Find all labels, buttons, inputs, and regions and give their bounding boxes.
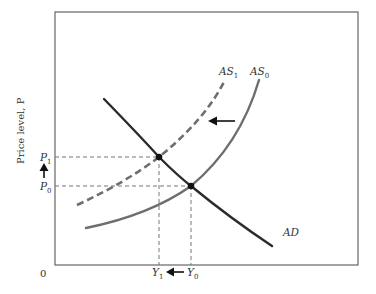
ad-curve bbox=[104, 99, 272, 246]
equilibrium-point-new bbox=[156, 154, 163, 161]
as1-label: AS1 bbox=[218, 65, 238, 80]
as0-label: AS0 bbox=[249, 65, 269, 80]
equilibrium-point-initial bbox=[188, 183, 195, 190]
y0-label: Y0 bbox=[187, 266, 198, 281]
output-left-arrow-icon bbox=[166, 268, 184, 277]
ad-as-diagram: AS1 AS0 AD P1 P0 Y1 Y0 0 Price level, P bbox=[0, 0, 376, 294]
as0-curve bbox=[86, 80, 259, 228]
p1-label: P1 bbox=[39, 151, 52, 166]
plot-frame bbox=[55, 12, 358, 265]
y-axis-title: Price level, P bbox=[15, 97, 26, 164]
y1-label: Y1 bbox=[152, 266, 163, 281]
origin-label: 0 bbox=[40, 268, 46, 279]
p0-label: P0 bbox=[39, 180, 52, 195]
guide-lines bbox=[55, 157, 191, 265]
ad-label: AD bbox=[282, 226, 300, 238]
shift-left-arrow-icon bbox=[208, 117, 235, 126]
